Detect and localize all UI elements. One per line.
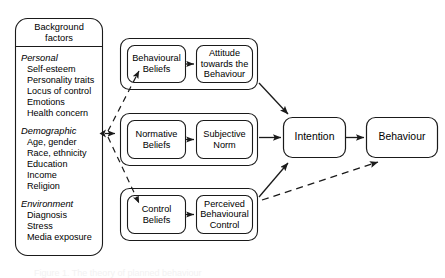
subjective-norm-label: Subjective Norm [196, 120, 253, 159]
background-item: Media exposure [20, 232, 102, 243]
background-group-heading: Environment [20, 199, 102, 210]
label-line: Beliefs [127, 140, 186, 151]
background-item: Religion [20, 181, 102, 192]
perceived-behavioural-control-label: Perceived Behavioural Control [196, 195, 253, 234]
background-factors-title: Background factors [16, 22, 102, 44]
background-item: Stress [20, 221, 102, 232]
label-line: towards the [196, 59, 253, 70]
label-line: Behaviour [196, 69, 253, 80]
background-item: Personality traits [20, 75, 102, 86]
diagram-text-layer: Background factors Personal Self-esteem … [0, 0, 445, 278]
label-line: Control [127, 204, 186, 215]
background-item: Age, gender [20, 137, 102, 148]
label-line: Subjective [196, 129, 253, 140]
control-beliefs-label: Control Beliefs [127, 195, 186, 234]
background-item: Self-esteem [20, 64, 102, 75]
background-group-heading: Demographic [20, 126, 102, 137]
diagram-canvas: Background factors Personal Self-esteem … [0, 0, 445, 278]
label-line: Beliefs [127, 215, 186, 226]
background-item: Income [20, 170, 102, 181]
label-line: Perceived [196, 199, 253, 210]
attitude-label: Attitude towards the Behaviour [196, 45, 253, 83]
background-group-personal: Personal Self-esteem Personality traits … [20, 53, 102, 119]
background-item: Education [20, 159, 102, 170]
behavioural-beliefs-label: Behavioural Beliefs [127, 45, 186, 83]
label-line: Normative [127, 129, 186, 140]
background-group-heading: Personal [20, 53, 102, 64]
background-group-demographic: Demographic Age, gender Race, ethnicity … [20, 126, 102, 192]
intention-label: Intention [283, 117, 346, 158]
normative-beliefs-label: Normative Beliefs [127, 120, 186, 159]
background-item: Race, ethnicity [20, 148, 102, 159]
label-line: Behavioural [127, 53, 186, 64]
background-factors-title-line2: factors [16, 33, 102, 44]
background-item: Diagnosis [20, 210, 102, 221]
background-factors-title-line1: Background [16, 22, 102, 33]
background-item: Emotions [20, 97, 102, 108]
behaviour-label: Behaviour [366, 117, 438, 158]
label-line: Norm [196, 140, 253, 151]
background-item: Locus of control [20, 86, 102, 97]
label-line: Beliefs [127, 64, 186, 75]
label-line: Attitude [196, 48, 253, 59]
background-item: Health concern [20, 108, 102, 119]
label-line: Control [196, 220, 253, 231]
label-line: Behavioural [196, 209, 253, 220]
background-group-environment: Environment Diagnosis Stress Media expos… [20, 199, 102, 243]
figure-caption-clipped: Figure 1. The theory of planned behaviou… [34, 269, 414, 278]
